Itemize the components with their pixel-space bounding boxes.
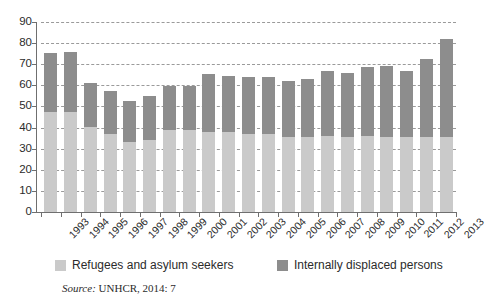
x-tick-label: 1997 [146, 216, 170, 240]
y-tickmark [32, 149, 37, 150]
bar-segment-idps [64, 52, 77, 112]
bar-segment-refugees [104, 134, 117, 212]
bar-segment-refugees [44, 112, 57, 212]
bar-group [143, 96, 156, 212]
bar-segment-idps [262, 77, 275, 134]
bar-group [202, 74, 215, 212]
x-axis-tick-labels: 1993199419951996199719981999200020012002… [41, 216, 456, 260]
y-tick-label: 80 [19, 37, 32, 49]
y-tickmark [32, 106, 37, 107]
bar-segment-refugees [163, 130, 176, 212]
bar-group [123, 101, 136, 212]
bar-group [440, 39, 453, 212]
bar-group [321, 71, 334, 212]
y-tickmark [32, 22, 37, 23]
y-tickmark [32, 170, 37, 171]
bar-segment-refugees [143, 140, 156, 212]
bar-segment-idps [104, 91, 117, 134]
bar-segment-refugees [400, 137, 413, 212]
y-tick-label: 60 [19, 80, 32, 92]
bar-segment-refugees [84, 127, 97, 213]
bar-segment-refugees [420, 137, 433, 212]
bar-group [84, 83, 97, 212]
bar-group [420, 59, 433, 212]
bar-group [341, 73, 354, 212]
bar-group [163, 86, 176, 212]
legend-item-refugees: Refugees and asylum seekers [55, 258, 233, 272]
bar-segment-refugees [202, 132, 215, 212]
x-tick-label: 2001 [225, 216, 249, 240]
bar-segment-idps [321, 71, 334, 136]
bar-segment-idps [183, 86, 196, 129]
legend-label-refugees: Refugees and asylum seekers [72, 258, 233, 272]
bar-group [64, 52, 77, 212]
bar-segment-idps [84, 83, 97, 126]
bar-segment-refugees [262, 134, 275, 212]
plot-area: 0102030405060708090 19931994199519961997… [0, 0, 464, 228]
x-tick-label: 2005 [304, 216, 328, 240]
bar-group [361, 67, 374, 212]
x-tick-label: 2012 [442, 216, 466, 240]
source-note: Source: UNHCR, 2014: 7 [62, 282, 176, 294]
x-axis-line [36, 212, 456, 213]
y-tick-label: 90 [19, 16, 32, 28]
y-tick-label: 30 [19, 143, 32, 155]
x-tick-label: 2000 [205, 216, 229, 240]
y-tickmark [32, 85, 37, 86]
x-tick-label: 1993 [67, 216, 91, 240]
bar-segment-idps [242, 77, 255, 134]
x-tick-label: 1995 [106, 216, 130, 240]
source-text: UNHCR, 2014: 7 [96, 282, 176, 294]
bar-segment-refugees [183, 130, 196, 212]
y-tickmark [32, 43, 37, 44]
x-tick-label: 2013 [462, 216, 486, 240]
y-axis-line [36, 22, 37, 213]
y-tick-label: 10 [19, 185, 32, 197]
bar-group [380, 66, 393, 212]
bar-group [400, 71, 413, 212]
bar-segment-refugees [361, 136, 374, 212]
bar-group [282, 81, 295, 212]
bar-group [262, 77, 275, 212]
bar-segment-refugees [341, 137, 354, 212]
y-tickmark [32, 191, 37, 192]
bar-segment-idps [123, 101, 136, 142]
y-tick-label: 70 [19, 58, 32, 70]
bar-group [44, 53, 57, 212]
y-tick-label: 40 [19, 122, 32, 134]
bar-segment-refugees [64, 112, 77, 212]
bar-segment-refugees [242, 134, 255, 212]
y-tickmark [32, 128, 37, 129]
bar-segment-idps [341, 73, 354, 137]
bar-segment-idps [44, 53, 57, 112]
bar-group [242, 77, 255, 212]
bar-segment-refugees [282, 137, 295, 212]
bar-segment-refugees [301, 137, 314, 212]
legend-item-idps: Internally displaced persons [277, 258, 443, 272]
bar-segment-refugees [321, 136, 334, 212]
bar-segment-idps [380, 66, 393, 137]
y-tickmark [32, 64, 37, 65]
y-tickmark [32, 212, 37, 213]
bar-segment-idps [202, 74, 215, 132]
bar-group [222, 76, 235, 212]
x-tick-label: 2004 [284, 216, 308, 240]
x-tick-label: 1996 [126, 216, 150, 240]
bar-segment-refugees [123, 142, 136, 212]
y-axis-tick-labels: 0102030405060708090 [0, 0, 36, 228]
legend-swatch-icon-refugees [55, 260, 66, 271]
bar-segment-idps [400, 71, 413, 138]
plot-canvas [41, 22, 456, 212]
bar-segment-idps [282, 81, 295, 137]
bar-segment-refugees [440, 137, 453, 212]
bar-segment-idps [163, 86, 176, 129]
bar-group [301, 79, 314, 212]
bar-segment-idps [440, 39, 453, 137]
bar-segment-refugees [222, 132, 235, 212]
y-tick-label: 50 [19, 101, 32, 113]
legend-swatch-icon-idps [277, 260, 288, 271]
x-tick-label: 2008 [363, 216, 387, 240]
legend-label-idps: Internally displaced persons [294, 258, 443, 272]
y-tick-label: 20 [19, 164, 32, 176]
